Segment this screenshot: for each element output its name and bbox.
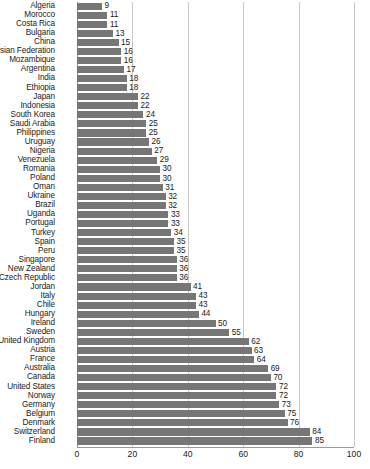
bar-row: Jordan41 [77,283,354,292]
bar-row: Nigeria27 [77,147,354,156]
bar [77,311,199,318]
bar-row: India18 [77,74,354,83]
bar-value-label: 33 [171,210,180,219]
bar-value-label: 43 [199,300,208,309]
bar [77,39,119,46]
plot-area: Algeria9Morocco11Costa Rica11Bulgaria13C… [77,0,354,447]
bar-value-label: 11 [110,20,118,29]
bar-row: Norway72 [77,392,354,401]
bar-row: Australia69 [77,364,354,373]
bar [77,401,279,408]
bar-row: Argentina17 [77,65,354,74]
x-tick-label-80: 80 [294,449,304,460]
x-tick-label-20: 20 [128,449,138,460]
bar-value-label: 27 [154,146,163,155]
bar [77,347,252,354]
bar-value-label: 76 [290,418,299,427]
bar-row: Finland85 [77,437,354,446]
bar-row: France64 [77,355,354,364]
bar-row: Ethiopia18 [77,84,354,93]
bar-value-label: 73 [282,400,291,409]
bar-row: New Zealand36 [77,265,354,274]
bar-value-label: 72 [279,391,288,400]
bar-row: Morocco11 [77,11,354,20]
bar-row: Czech Republic36 [77,274,354,283]
bar [77,138,149,145]
bar [77,238,174,245]
bar-row: Mozambique16 [77,56,354,65]
bar-value-label: 35 [176,237,185,246]
bar-value-label: 33 [171,219,180,228]
gridline-100 [354,2,355,447]
bar-value-label: 17 [127,65,136,74]
bar [77,184,163,191]
bar-value-label: 31 [165,183,174,192]
bar-row: Belgium75 [77,410,354,419]
bar-value-label: 29 [160,155,169,164]
bar-row: Oman31 [77,183,354,192]
bar-row: Peru35 [77,247,354,256]
x-tick-label-60: 60 [238,449,248,460]
bar [77,256,177,263]
bar [77,175,160,182]
bar [77,48,121,55]
bar-value-label: 64 [257,355,266,364]
bar [77,211,168,218]
bar-value-label: 34 [174,228,183,237]
bar-value-label: 26 [152,137,161,146]
bar-row: Italy43 [77,292,354,301]
bar [77,12,107,19]
bar-value-label: 72 [279,382,288,391]
bar-row: Uruguay26 [77,138,354,147]
bar [77,220,168,227]
bar [77,392,276,399]
bar [77,293,196,300]
bar-value-label: 22 [140,101,149,110]
bar-row: Austria63 [77,346,354,355]
bar-row: United Kingdom62 [77,337,354,346]
bar-row: Japan22 [77,93,354,102]
bar-value-label: 18 [129,83,138,92]
bar [77,84,127,91]
bar-value-label: 9 [104,1,108,10]
bar-value-label: 32 [168,192,177,201]
x-tick-label-40: 40 [183,449,193,460]
bar [77,75,127,82]
bar [77,229,171,236]
bar-row: Ukraine32 [77,192,354,201]
bar [77,265,177,272]
bar [77,66,124,73]
bar-value-label: 62 [251,337,260,346]
bar [77,57,121,64]
bar-value-label: 16 [124,47,133,56]
bar [77,356,254,363]
bar-row: Poland30 [77,174,354,183]
bar-value-label: 24 [146,110,155,119]
bar-value-label: 63 [254,346,263,355]
bar-value-label: 84 [312,427,321,436]
bar [77,247,174,254]
bar-value-label: 75 [287,409,296,418]
bar [77,437,312,444]
bar [77,274,177,281]
bar-chart: Algeria9Morocco11Costa Rica11Bulgaria13C… [0,0,370,469]
bar-row: Chile43 [77,301,354,310]
bar [77,338,249,345]
bar-value-label: 25 [149,119,158,128]
bar-row: Canada70 [77,373,354,382]
bar-value-label: 16 [124,56,133,65]
bar-row: China15 [77,38,354,47]
bar-row: Spain35 [77,238,354,247]
bar-value-label: 36 [179,273,188,282]
x-tick-label-100: 100 [347,449,361,460]
bar [77,102,138,109]
bar-value-label: 43 [199,291,208,300]
bar [77,93,138,100]
bar [77,111,143,118]
bar [77,157,157,164]
bar-row: Turkey34 [77,229,354,238]
bar [77,410,285,417]
bar-row: Germany73 [77,401,354,410]
bar-value-label: 32 [168,201,177,210]
bar-value-label: 22 [140,92,149,101]
